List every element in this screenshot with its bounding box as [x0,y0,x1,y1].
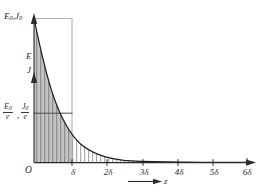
y-axis-label-E: E [26,52,32,61]
x-axis-direction-arrow [128,179,162,184]
y-axis-label-J: J [27,66,31,75]
y-level-label-separator: , [17,111,19,120]
x-axis-label: z [164,177,168,186]
y-level-label-E0-over-e: E0 e [3,103,13,122]
fraction-numerator-E0: E0 [3,103,13,111]
x-tick-label-6delta: 6δ [239,168,255,177]
x-tick-label-3delta: 3δ [136,168,152,177]
fraction-numerator-J0: J0 [21,103,29,111]
origin-label: O [25,166,32,176]
y-top-label: E0,J0 [4,11,22,21]
fraction-denominator-e: e [3,113,13,121]
skin-depth-decay-chart [0,0,262,193]
x-tick-label-4delta: 4δ [171,168,187,177]
y-top-label-J-sub: 0 [19,14,22,21]
x-tick-label-2delta: 2δ [100,168,116,177]
figure-container: O δ 2δ 3δ 4δ 5δ 6δ z E0,J0 E J E0 e , J0… [0,0,262,193]
y-level-label-J0-over-e: J0 e [21,103,29,122]
x-tick-label-5delta: 5δ [206,168,222,177]
fraction-denominator-e: e [21,113,29,121]
x-tick-label-delta: δ [66,168,80,177]
